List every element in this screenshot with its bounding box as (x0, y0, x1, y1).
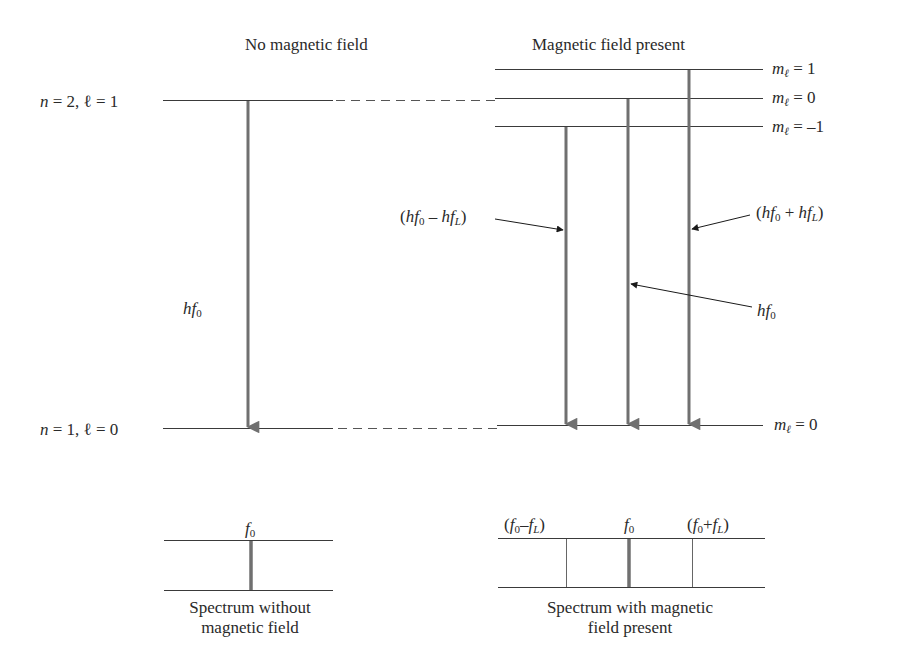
hf-text: hf (441, 207, 454, 226)
caption-line-1: Spectrum without (150, 598, 350, 618)
label-ml-0-lower: mℓ = 0 (774, 416, 817, 433)
spectrum-without-field (164, 541, 333, 591)
ml-value: 1 (807, 59, 816, 78)
hf-text: hf (757, 301, 770, 320)
label-ml-plus1: mℓ = 1 (772, 60, 815, 77)
subscript-0: 0 (250, 527, 256, 539)
equals: = (793, 88, 803, 107)
subscript-0: 0 (196, 307, 202, 319)
paren-close: ) (461, 207, 467, 226)
l-value: 0 (110, 420, 119, 439)
paren-close: ) (818, 203, 824, 222)
subscript-0: 0 (775, 211, 781, 223)
m-symbol: m (774, 415, 786, 434)
subscript-0: 0 (629, 523, 635, 535)
caption-spectrum-with-field: Spectrum with magnetic field present (510, 598, 750, 638)
label-hf0-plus-hfL: (hf0 + hfL) (756, 204, 824, 221)
n-symbol: n (40, 420, 49, 439)
equals: = (53, 420, 63, 439)
caption-spectrum-without-field: Spectrum without magnetic field (150, 598, 350, 638)
m-symbol: m (772, 117, 784, 136)
spectrum-with-field (498, 539, 765, 588)
heading-magnetic-field-present: Magnetic field present (532, 36, 685, 53)
n-symbol: n (40, 92, 49, 111)
spectrum-label-f0-minus-fL: (f0–fL) (504, 516, 545, 533)
n-value: 1, (67, 420, 80, 439)
spectrum-label-f0-plus-fL: (f0+fL) (687, 516, 729, 533)
zeeman-diagram-graphics (0, 0, 900, 670)
m-subscript: ℓ (784, 67, 789, 79)
l-value: 1 (110, 92, 119, 111)
hf-text: hf (799, 203, 812, 222)
hf-text: hf (406, 207, 419, 226)
m-subscript: ℓ (784, 125, 789, 137)
equals: = (793, 117, 803, 136)
pointer-arrow-minus (495, 219, 563, 230)
equals: = (793, 59, 803, 78)
caption-line-1: Spectrum with magnetic (510, 598, 750, 618)
hf-text: hf (183, 299, 196, 318)
equals: = (96, 420, 106, 439)
pointer-arrow-center (631, 284, 752, 307)
label-n1-l0: n = 1, ℓ = 0 (40, 421, 118, 438)
label-ml-minus1: mℓ = –1 (772, 118, 824, 135)
pointer-arrow-plus (692, 215, 750, 229)
spectrum-label-f0: f0 (245, 520, 255, 537)
label-hf0-minus-hfL: (hf0 – hfL) (400, 208, 466, 225)
ml-value: 0 (807, 88, 816, 107)
paren-close: ) (539, 515, 545, 534)
l-symbol: ℓ (84, 420, 92, 439)
hf-text: hf (762, 203, 775, 222)
equals: = (96, 92, 106, 111)
subscript-0: 0 (770, 309, 776, 321)
n-value: 2, (67, 92, 80, 111)
label-ml-0-upper: mℓ = 0 (772, 89, 815, 106)
label-hf0-center: hf0 (757, 302, 776, 319)
m-symbol: m (772, 59, 784, 78)
spectrum-label-f0-center: f0 (624, 516, 634, 533)
m-symbol: m (772, 88, 784, 107)
minus-sign: – (429, 207, 438, 226)
plus-sign: + (703, 515, 713, 534)
ml-value: 0 (809, 415, 818, 434)
caption-line-2: magnetic field (150, 618, 350, 638)
label-n2-l1: n = 2, ℓ = 1 (40, 93, 118, 110)
label-hf0-no-field: hf0 (183, 300, 202, 317)
ml-value: –1 (807, 117, 824, 136)
subscript-0: 0 (419, 215, 425, 227)
heading-no-magnetic-field: No magnetic field (245, 36, 368, 53)
m-subscript: ℓ (786, 423, 791, 435)
equals: = (795, 415, 805, 434)
equals: = (53, 92, 63, 111)
paren-close: ) (723, 515, 729, 534)
l-symbol: ℓ (84, 92, 92, 111)
caption-line-2: field present (510, 618, 750, 638)
m-subscript: ℓ (784, 96, 789, 108)
plus-sign: + (785, 203, 795, 222)
